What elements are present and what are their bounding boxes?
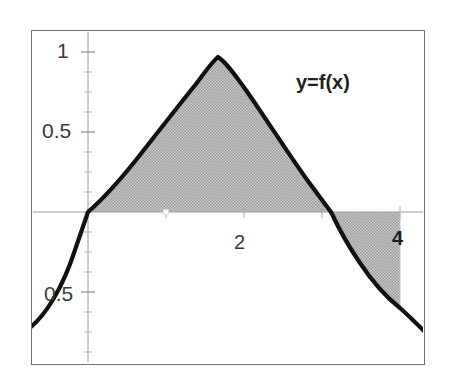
x-axis-tick-label-4: 4 xyxy=(392,228,403,248)
y-axis-tick-label-1: 1 xyxy=(57,40,69,61)
y-axis-tick-label-negative-0point5: 0.5 xyxy=(44,283,73,304)
y-axis-tick-label-0point5: 0.5 xyxy=(42,120,71,141)
x-axis-tick-label-2: 2 xyxy=(234,232,245,252)
curve-equation-label: y=f(x) xyxy=(296,72,350,92)
axis-marker-dot xyxy=(163,209,169,215)
figure-root: 1 0.5 0.5 2 4 y=f(x) xyxy=(0,0,452,386)
shaded-area-below-axis xyxy=(331,212,400,308)
shaded-area-above-axis xyxy=(88,57,331,212)
